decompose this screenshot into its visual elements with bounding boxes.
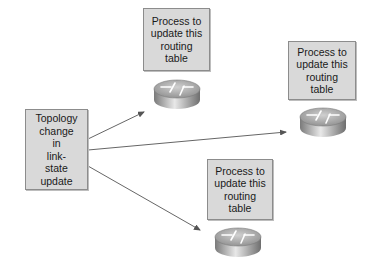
router-icon (299, 106, 347, 140)
diagram-canvas: Topology change in link- state update Pr… (0, 0, 374, 270)
process-label-bottom: Process to update this routing table (214, 165, 265, 215)
arrow-to-bottom-router (88, 166, 200, 230)
process-box-top: Process to update this routing table (143, 8, 210, 71)
router-icon (153, 78, 201, 112)
process-label-top: Process to update this routing table (151, 15, 202, 65)
process-box-right: Process to update this routing table (288, 41, 356, 100)
process-box-bottom: Process to update this routing table (207, 159, 273, 220)
arrow-to-top-router (88, 112, 144, 139)
topology-change-box: Topology change in link- state update (25, 109, 88, 190)
process-label-right: Process to update this routing table (296, 46, 347, 96)
arrow-to-right-router (88, 132, 286, 150)
router-icon (214, 226, 262, 260)
topology-change-label: Topology change in link- state update (35, 112, 77, 187)
